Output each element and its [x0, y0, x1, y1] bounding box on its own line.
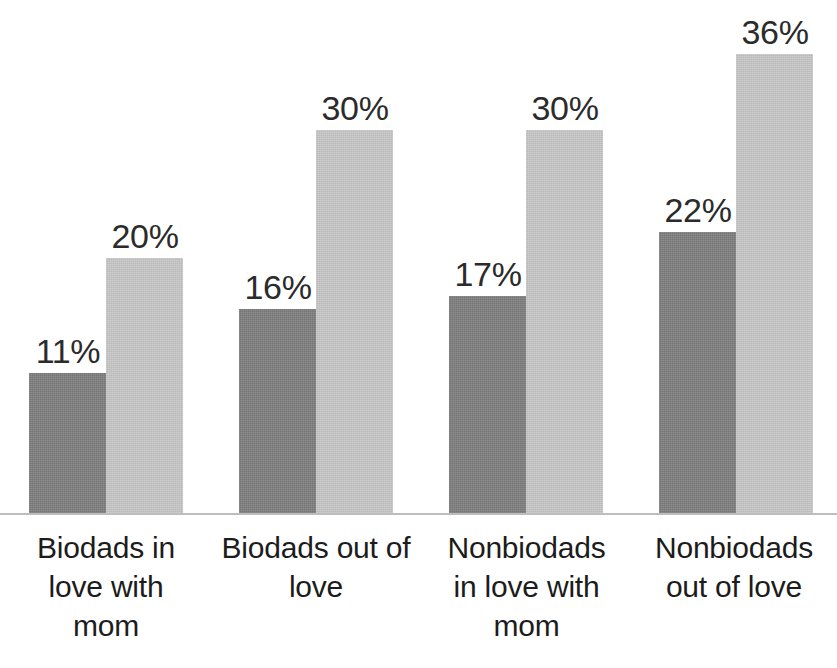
- category-axis: Biodads in love with mom Biodads out of …: [0, 528, 837, 668]
- bar-group: 16% 30%: [239, 0, 393, 513]
- bar-series-2[interactable]: [106, 258, 183, 513]
- bar-series-2[interactable]: [316, 130, 393, 513]
- category-label-line: love: [211, 567, 421, 606]
- bar-series-1[interactable]: [659, 232, 736, 513]
- bar-value-label: 17%: [433, 257, 543, 291]
- plot-area: 11% 20% 16% 30% 17% 30% 22% 36%: [0, 0, 837, 513]
- bar-group: 17% 30%: [449, 0, 603, 513]
- bar-value-label: 11%: [13, 334, 123, 368]
- category-label-3: Nonbiodads in love with mom: [424, 528, 629, 645]
- bar-series-2[interactable]: [736, 54, 813, 513]
- category-label-4: Nonbiodads out of love: [634, 528, 834, 606]
- category-label-line: love with: [6, 567, 206, 606]
- bar-series-2[interactable]: [526, 130, 603, 513]
- category-label-line: Nonbiodads: [424, 528, 629, 567]
- bar-series-1[interactable]: [29, 373, 106, 513]
- category-label-2: Biodads out of love: [211, 528, 421, 606]
- bar-chart: 11% 20% 16% 30% 17% 30% 22% 36% Biodads: [0, 0, 837, 668]
- bar-value-label: 30%: [300, 91, 410, 125]
- category-label-line: mom: [424, 606, 629, 645]
- category-label-line: in love with: [424, 567, 629, 606]
- category-label-1: Biodads in love with mom: [6, 528, 206, 645]
- bar-value-label: 30%: [510, 91, 620, 125]
- axis-baseline: [0, 513, 837, 515]
- bar-series-1[interactable]: [449, 296, 526, 513]
- bar-series-1[interactable]: [239, 309, 316, 513]
- bar-value-label: 36%: [720, 15, 830, 49]
- category-label-line: Nonbiodads: [634, 528, 834, 567]
- bar-value-label: 20%: [90, 219, 200, 253]
- category-label-line: out of love: [634, 567, 834, 606]
- bar-group: 11% 20%: [29, 0, 183, 513]
- bar-value-label: 16%: [223, 270, 333, 304]
- bar-group: 22% 36%: [659, 0, 813, 513]
- category-label-line: Biodads out of: [211, 528, 421, 567]
- bar-value-label: 22%: [643, 193, 753, 227]
- category-label-line: Biodads in: [6, 528, 206, 567]
- category-label-line: mom: [6, 606, 206, 645]
